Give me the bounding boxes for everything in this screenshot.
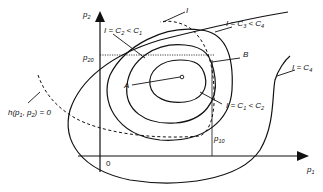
point-B-label: B <box>243 50 249 59</box>
leader-A <box>132 77 180 85</box>
diagram-canvas: p2 p1 0 p20 p10 A B I I = C2 < C1 I = C3… <box>0 0 323 192</box>
leader-I <box>163 12 185 22</box>
point-A-label: A <box>123 81 129 90</box>
y-axis-label: p2 <box>82 10 91 20</box>
contour-c1-label: I = C1 < C2 <box>226 101 264 111</box>
constraint-label: h(p1, p2) = 0 <box>8 108 51 118</box>
axes <box>78 18 302 172</box>
contour-c4 <box>68 12 290 183</box>
p10-label: p10 <box>213 134 226 144</box>
p20-label: p20 <box>82 53 95 63</box>
origin-label: 0 <box>106 159 111 168</box>
contour-c2-label: I = C2 < C1 <box>104 26 142 36</box>
leader-B <box>212 58 240 62</box>
x-axis-arrow-icon <box>297 151 309 161</box>
optimum-point <box>180 75 184 79</box>
contour-c4-label: I = C4 <box>292 63 312 73</box>
constraint-curve <box>38 21 214 137</box>
I-label: I <box>186 6 189 15</box>
contour-c1 <box>150 60 206 102</box>
leader-constraint <box>28 92 40 103</box>
y-axis-arrow-icon <box>95 11 105 22</box>
x-axis-label: p1 <box>306 165 315 175</box>
leader-c2 <box>113 34 145 58</box>
